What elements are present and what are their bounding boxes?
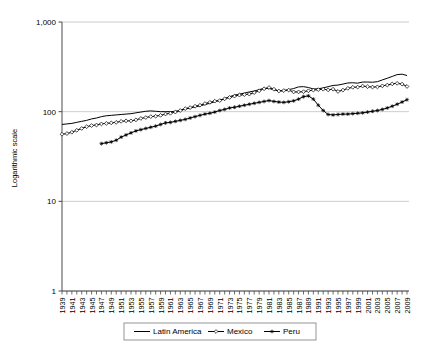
data-point-marker [282, 100, 286, 104]
data-point-marker [164, 121, 168, 125]
data-point-marker [277, 89, 281, 93]
y-tick-label: 1 [52, 287, 57, 296]
data-point-marker [119, 135, 123, 139]
data-point-marker [95, 123, 99, 127]
data-point-marker [282, 89, 286, 93]
data-point-marker [376, 85, 380, 89]
y-tick-label: 1,000 [36, 18, 57, 27]
x-tick-label: 1959 [157, 298, 166, 314]
x-tick-label: 1939 [58, 298, 67, 314]
chart-legend: Latin AmericaMexicoPeru [124, 323, 316, 340]
data-point-marker [60, 132, 64, 136]
data-point-marker [361, 111, 365, 115]
data-point-marker [208, 111, 212, 115]
data-series [60, 74, 409, 145]
data-point-marker [228, 106, 232, 110]
data-point-marker [405, 85, 409, 89]
chart-container: 1,000100101 1939194119431945194719491951… [0, 0, 439, 350]
data-point-marker [159, 113, 163, 117]
data-point-marker [395, 102, 399, 106]
data-point-marker [85, 125, 89, 129]
data-point-marker [65, 132, 69, 136]
x-tick-label: 1975 [235, 298, 244, 314]
data-point-marker [346, 86, 350, 90]
data-point-marker [159, 123, 163, 127]
legend-label: Peru [283, 327, 300, 336]
x-tick-label: 1957 [147, 298, 156, 314]
data-point-marker [267, 99, 271, 103]
x-tick-label: 1987 [295, 298, 304, 314]
data-point-marker [405, 98, 409, 102]
y-axis-title: Logarithmic scale [10, 129, 19, 187]
data-point-marker [316, 103, 320, 107]
data-point-marker [336, 90, 340, 94]
x-tick-label: 1991 [314, 298, 323, 314]
axes [62, 22, 409, 291]
x-tick-label: 1953 [127, 298, 136, 314]
data-point-marker [80, 127, 84, 131]
data-point-marker [164, 112, 168, 116]
data-point-marker [218, 109, 222, 113]
data-point-marker [90, 124, 94, 128]
data-point-marker [380, 107, 384, 111]
data-point-marker [218, 99, 222, 103]
data-point-marker [400, 82, 404, 86]
data-point-marker [366, 110, 370, 114]
x-tick-label: 2003 [373, 298, 382, 314]
data-point-marker [346, 112, 350, 116]
x-tick-label: 1979 [255, 298, 264, 314]
data-point-marker [134, 118, 138, 122]
data-point-marker [277, 100, 281, 104]
data-point-marker [302, 95, 306, 99]
legend-label: Mexico [227, 327, 253, 336]
data-point-marker [223, 107, 227, 111]
x-axis-ticks: 1939194119431945194719491951195319551957… [58, 291, 412, 314]
data-point-marker [193, 115, 197, 119]
x-tick-label: 1977 [245, 298, 254, 314]
data-point-marker [297, 90, 301, 94]
data-point-marker [139, 117, 143, 121]
data-point-marker [242, 103, 246, 107]
x-tick-label: 1945 [88, 298, 97, 314]
series-latin-america [62, 74, 407, 124]
data-point-marker [272, 100, 276, 104]
data-point-marker [385, 106, 389, 110]
data-point-marker [183, 107, 187, 111]
data-point-marker [149, 115, 153, 119]
x-tick-label: 2001 [364, 298, 373, 314]
data-point-marker [307, 94, 311, 98]
logarithmic-line-chart: 1,000100101 1939194119431945194719491951… [0, 0, 439, 350]
data-point-marker [371, 85, 375, 89]
data-point-marker [257, 100, 261, 104]
data-point-marker [272, 87, 276, 91]
data-point-marker [203, 112, 207, 116]
data-point-marker [100, 142, 104, 146]
data-point-marker [144, 116, 148, 120]
data-point-marker [351, 85, 355, 89]
data-point-marker [380, 84, 384, 88]
data-point-marker [213, 110, 217, 114]
x-tick-label: 1949 [107, 298, 116, 314]
data-point-marker [252, 101, 256, 105]
x-tick-label: 1989 [304, 298, 313, 314]
x-tick-label: 2009 [403, 298, 412, 314]
x-tick-label: 1985 [285, 298, 294, 314]
x-tick-label: 2007 [393, 298, 402, 314]
data-point-marker [154, 114, 158, 118]
x-tick-label: 1963 [176, 298, 185, 314]
data-point-marker [371, 109, 375, 113]
data-point-marker [400, 100, 404, 104]
data-point-marker [326, 88, 330, 92]
series-line [62, 74, 407, 124]
x-tick-label: 1971 [216, 298, 225, 314]
data-point-marker [356, 85, 360, 89]
data-point-marker [144, 127, 148, 131]
data-point-marker [287, 100, 291, 104]
data-point-marker [173, 119, 177, 123]
data-point-marker [331, 113, 335, 117]
data-point-marker [104, 121, 108, 125]
x-tick-label: 1947 [97, 298, 106, 314]
data-point-marker [292, 90, 296, 94]
y-tick-label: 10 [47, 197, 56, 206]
data-point-marker [70, 130, 74, 134]
